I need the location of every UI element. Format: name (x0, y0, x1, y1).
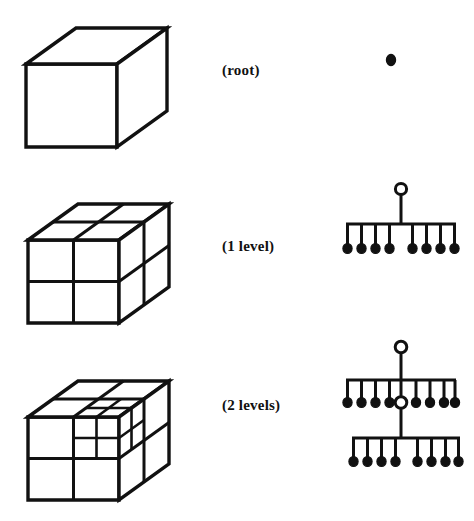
tree-node-leaf (450, 244, 459, 254)
tree-node-leaf (377, 457, 386, 467)
tree-node-leaf (343, 244, 352, 254)
tree-node-leaf (408, 244, 417, 254)
tree-node-internal-root (395, 341, 407, 353)
tree-node-leaf (436, 244, 445, 254)
tree-node-leaf (343, 398, 352, 408)
tree-node-leaf (425, 398, 434, 408)
tree-node-leaf (441, 457, 450, 467)
tree-node-leaf (422, 244, 431, 254)
tree-node-leaf (439, 398, 448, 408)
tree-node-leaf (371, 398, 380, 408)
tree-node-leaf (385, 244, 394, 254)
tree-two-levels (338, 335, 468, 495)
cube-2x2x2-with-subdivided-octant (14, 345, 204, 521)
tree-node-leaf (454, 457, 463, 467)
tree-node-leaf (363, 457, 372, 467)
row-two-levels: (2 levels) (0, 335, 474, 521)
tree-node-leaf (427, 457, 436, 467)
tree-node-leaf (349, 457, 358, 467)
row-root: (root) (0, 0, 474, 170)
cube-undivided (14, 16, 194, 156)
tree-node-leaf (371, 244, 380, 254)
tree-node-leaf (357, 244, 366, 254)
row-label-two-levels: (2 levels) (222, 397, 280, 414)
cube-2x2x2 (14, 182, 204, 337)
tree-one-level (338, 176, 466, 271)
tree-node-leaf (386, 54, 395, 65)
tree-node-leaf (357, 398, 366, 408)
tree-root-only (340, 30, 460, 110)
tree-node-leaf (385, 398, 394, 408)
tree-node-leaf (450, 398, 459, 408)
octree-subdivision-figure: (root) (0, 0, 474, 521)
tree-node-leaf (413, 457, 422, 467)
tree-node-internal-child (395, 397, 407, 409)
tree-node-leaf (411, 398, 420, 408)
row-one-level: (1 level) (0, 170, 474, 335)
tree-node-leaf (391, 457, 400, 467)
tree-node-internal-root (395, 183, 406, 194)
row-label-root: (root) (222, 62, 260, 79)
row-label-one-level: (1 level) (222, 238, 274, 255)
